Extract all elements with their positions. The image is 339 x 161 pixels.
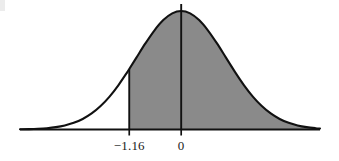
shaded-area-region — [129, 11, 320, 130]
axis-label-minus-1-16: −1.16 — [114, 138, 145, 153]
normal-distribution-figure: −1.16 0 — [0, 0, 339, 161]
distribution-chart-svg: −1.16 0 — [0, 0, 339, 161]
axis-label-zero: 0 — [178, 138, 185, 153]
